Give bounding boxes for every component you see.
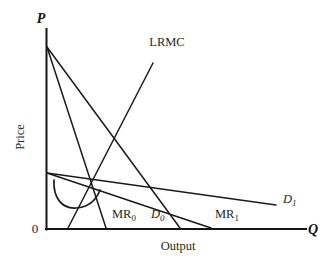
d0-label-subscript: 0 <box>160 213 165 223</box>
x-axis-title: Output <box>161 239 196 253</box>
mr1-label: MR1 <box>215 207 239 223</box>
mr1-label-base: MR <box>215 207 235 221</box>
origin-label: 0 <box>32 221 39 236</box>
mr0-label-base: MR <box>112 207 132 221</box>
d1-label: D1 <box>282 192 297 208</box>
lrmc-curve <box>68 63 153 228</box>
x-axis-symbol: Q <box>308 222 318 237</box>
lrac-curve <box>54 180 100 208</box>
demand-curve-d1 <box>47 173 276 205</box>
y-axis-symbol: P <box>37 11 46 26</box>
d1-label-base: D <box>282 192 292 206</box>
mr0-label-subscript: 0 <box>131 213 136 223</box>
mr0-label: MR0 <box>112 207 136 223</box>
y-axis-title: Price <box>13 124 27 150</box>
economics-diagram-figure: P Q 0 Price Output LRMC MR0 D0 MR1 D1 <box>0 0 333 266</box>
d0-label: D0 <box>150 207 165 223</box>
chart-canvas: P Q 0 Price Output LRMC MR0 D0 MR1 D1 <box>0 0 333 266</box>
d0-label-base: D <box>150 207 160 221</box>
marginal-revenue-curve-mr0 <box>47 47 106 228</box>
mr1-label-subscript: 1 <box>234 213 239 223</box>
demand-curve-d0 <box>47 47 180 228</box>
lrmc-label: LRMC <box>149 35 184 49</box>
d1-label-subscript: 1 <box>292 198 297 208</box>
